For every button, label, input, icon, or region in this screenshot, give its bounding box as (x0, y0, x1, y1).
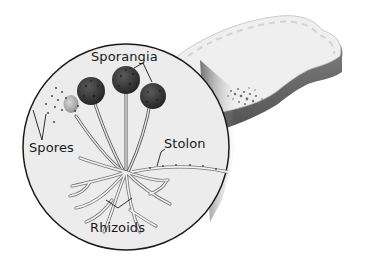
label-spores: Spores (29, 140, 74, 155)
label-sporangia: Sporangia (91, 49, 158, 64)
label-rhizoids: Rhizoids (90, 220, 145, 235)
bread-mold-diagram: Sporangia Spores Stolon Rhizoids (0, 0, 367, 261)
label-stolon: Stolon (164, 136, 206, 151)
